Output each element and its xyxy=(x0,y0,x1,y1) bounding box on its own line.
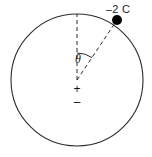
physics-diagram-figure: –2 C θ + – xyxy=(0,0,152,157)
diagram-canvas xyxy=(0,0,152,157)
center-minus-marker: – xyxy=(70,96,84,108)
point-charge-label: –2 C xyxy=(106,4,130,15)
charge-radius-dashed-line xyxy=(77,20,117,80)
theta-angle-label: θ xyxy=(75,53,81,65)
point-charge-dot xyxy=(112,15,122,25)
center-plus-marker: + xyxy=(70,83,84,95)
